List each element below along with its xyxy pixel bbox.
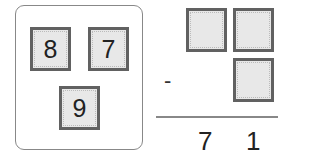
minuend-ones-slot[interactable]	[233, 8, 274, 52]
minuend-tens-slot[interactable]	[186, 8, 227, 52]
result-tens-digit: 7	[198, 126, 212, 157]
number-card-9[interactable]: 9	[59, 86, 100, 130]
subtrahend-ones-slot[interactable]	[233, 58, 274, 102]
minus-sign: -	[164, 68, 171, 94]
result-line	[156, 116, 278, 118]
number-card-8[interactable]: 8	[30, 27, 71, 71]
number-card-7[interactable]: 7	[88, 27, 129, 71]
result-ones-digit: 1	[246, 126, 260, 157]
